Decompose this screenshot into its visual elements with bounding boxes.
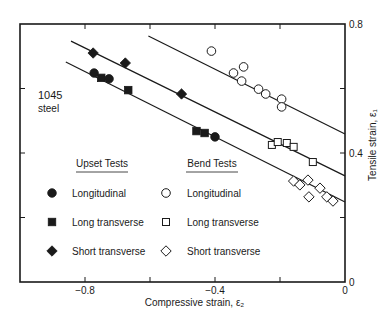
axis-ticks <box>20 24 345 282</box>
legend-group-title: Upset Tests <box>76 158 128 169</box>
filled-square-point <box>201 129 209 137</box>
open-circle-point <box>237 77 246 86</box>
x-tick-label: −0.4 <box>205 285 225 296</box>
legend-open-circle-icon <box>162 189 171 198</box>
x-tick-label: 0 <box>342 285 348 296</box>
material-annotation: 1045 steel <box>38 88 62 116</box>
legend-open-square-icon <box>163 219 170 226</box>
open-circle-point <box>261 90 270 99</box>
legend-entry-label: Long transverse <box>187 217 259 228</box>
legend-entry-label: Short transverse <box>187 246 261 257</box>
filled-square-point <box>124 86 132 94</box>
middle-fit-line <box>71 41 345 176</box>
open-diamond-point <box>304 192 314 202</box>
open-square-point <box>283 140 290 147</box>
legend-entry-label: Short transverse <box>72 246 146 257</box>
open-square-point <box>290 143 297 150</box>
filled-square-point <box>193 127 201 135</box>
series-open-square <box>268 139 316 166</box>
fit-lines <box>66 36 345 202</box>
upper-fit-line <box>148 36 345 134</box>
series-open-circle <box>207 47 286 111</box>
open-circle-point <box>277 103 286 112</box>
legend-entry-label: Longitudinal <box>72 188 126 199</box>
legend-filled-diamond-icon <box>47 246 57 256</box>
y-tick-label: 0.4 <box>349 148 363 159</box>
series-open-diamond <box>288 175 338 206</box>
open-circle-point <box>207 47 216 56</box>
legend-group-title: Bend Tests <box>187 158 236 169</box>
plot-border <box>20 24 345 282</box>
x-tick-label: −0.8 <box>75 285 95 296</box>
open-square-point <box>309 159 316 166</box>
legend-entry-label: Long transverse <box>72 217 144 228</box>
legend-filled-square-icon <box>48 218 56 226</box>
y-tick-label: 0 <box>349 277 355 288</box>
y-tick-label: 0.8 <box>349 19 363 30</box>
legend: Upset TestsLongitudinalLong transverseSh… <box>47 158 261 257</box>
filled-circle-point <box>211 133 220 142</box>
filled-square-point <box>98 74 106 82</box>
filled-circle-point <box>105 75 114 84</box>
open-square-point <box>274 139 281 146</box>
open-circle-point <box>239 63 248 72</box>
legend-entry-label: Longitudinal <box>187 188 241 199</box>
open-circle-point <box>229 69 238 78</box>
legend-filled-circle-icon <box>48 189 57 198</box>
x-axis-label: Compressive strain, ε₂ <box>0 297 369 308</box>
plot-frame <box>20 24 345 282</box>
legend-open-diamond-icon <box>161 246 171 256</box>
y-axis-label: Tensile strain, ε₁ <box>367 109 378 181</box>
annotation-material: steel <box>38 102 62 116</box>
filled-diamond-point <box>88 48 98 58</box>
chart: 0−0.8−0.400.40.8 Upset TestsLongitudinal… <box>0 0 389 321</box>
data-points <box>88 47 338 206</box>
annotation-alloy: 1045 <box>38 88 62 102</box>
legend-group-upset: Upset TestsLongitudinalLong transverseSh… <box>47 158 146 257</box>
legend-group-bend: Bend TestsLongitudinalLong transverseSho… <box>161 158 261 257</box>
